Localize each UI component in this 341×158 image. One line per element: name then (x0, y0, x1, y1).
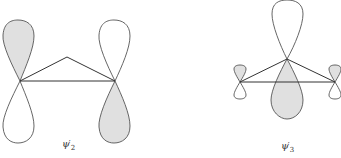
label-psi3-subscript: 3 (290, 146, 294, 154)
label-psi2-subscript: 2 (71, 144, 75, 152)
lobe-left-lower (3, 81, 34, 143)
diagram-psi3 (234, 0, 341, 119)
label-psi3: ψ′3 (281, 140, 294, 154)
diagram-psi2 (3, 20, 130, 143)
lobe-left-small-lower (234, 82, 246, 99)
lobe-apex-upper (272, 0, 303, 59)
lobe-right-small-lower (329, 82, 341, 99)
label-psi2: ψ′2 (62, 138, 75, 152)
orbital-diagram-canvas (0, 0, 341, 158)
lobe-right-upper (99, 20, 130, 81)
lobe-apex-lower-shaded (271, 59, 303, 119)
lobe-left-upper-shaded (3, 20, 34, 81)
lobe-right-lower-shaded (99, 81, 130, 143)
